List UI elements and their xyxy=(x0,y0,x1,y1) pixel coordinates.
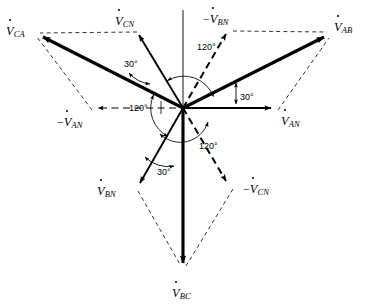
phasor-dot-bn xyxy=(100,179,102,181)
phasor-diagram-figure: VCA VCN −VBN VAB −VAN VAN VBN −VCN VBC 3… xyxy=(0,0,367,307)
label-v-bc-subscript: BC xyxy=(180,291,191,301)
phasor-dot-neg-cn xyxy=(252,177,254,179)
angle-label-120-top: 120° xyxy=(197,43,216,52)
phasor-dot-ab xyxy=(337,15,339,17)
angle-label-30-right: 30° xyxy=(240,93,254,102)
label-v-ab: VAB xyxy=(334,18,352,35)
label-neg-v-bn-subscript: BN xyxy=(217,17,228,27)
label-v-ab-symbol: V xyxy=(334,20,342,34)
label-v-cn: VCN xyxy=(115,12,134,29)
label-neg-v-an-subscript: AN xyxy=(71,120,82,130)
label-v-cn-symbol: V xyxy=(115,14,123,28)
label-v-bc-symbol: V xyxy=(172,286,180,300)
angle-label-30-upper-left: 30° xyxy=(124,60,138,69)
label-neg-v-an-symbol: V xyxy=(64,115,72,129)
label-neg-v-cn-symbol: V xyxy=(250,182,258,196)
label-neg-v-bn-symbol: V xyxy=(210,12,218,26)
angle-label-30-lower-left: 30° xyxy=(157,168,171,177)
label-neg-v-an-sign: − xyxy=(57,115,64,129)
label-neg-v-cn-sign: − xyxy=(243,182,250,196)
phasor-dot-neg-an xyxy=(66,110,68,112)
label-v-cn-subscript: CN xyxy=(123,19,135,29)
label-v-bn-subscript: BN xyxy=(105,189,116,199)
phasor-dot-cn xyxy=(118,9,120,11)
phasor-diagram-canvas xyxy=(0,0,367,307)
construction-line-negbn-to-ab xyxy=(233,31,327,32)
label-v-ca-subscript: CA xyxy=(14,29,25,39)
arc-120-left xyxy=(151,95,168,137)
phasor-dot-bc xyxy=(175,281,177,283)
label-v-ca-symbol: V xyxy=(6,24,14,38)
label-neg-v-bn: −VBN xyxy=(203,10,228,27)
construction-line-bn-to-bc xyxy=(138,191,181,266)
label-neg-v-an: −VAN xyxy=(57,113,82,130)
label-v-ca: VCA xyxy=(6,22,25,39)
phase-voltage-phasors-group xyxy=(139,35,271,183)
phasor-dot-ca xyxy=(9,19,11,21)
label-v-an: VAN xyxy=(281,112,300,129)
label-v-an-subscript: AN xyxy=(289,119,300,129)
label-neg-v-cn-subscript: CN xyxy=(257,187,269,197)
label-v-bc: VBC xyxy=(172,284,191,301)
angle-label-120-left: 120° xyxy=(129,104,148,113)
label-v-bn-symbol: V xyxy=(97,184,105,198)
label-v-an-symbol: V xyxy=(281,114,289,128)
construction-line-negcn-to-bc xyxy=(186,189,233,266)
label-neg-v-cn: −VCN xyxy=(243,180,269,197)
line-voltage-phasors-group xyxy=(43,37,324,263)
construction-line-cn-to-ca xyxy=(40,32,137,33)
label-v-bn: VBN xyxy=(97,182,116,199)
phasor-dot-an xyxy=(284,109,286,111)
phasor-dot-neg-bn xyxy=(212,7,214,9)
label-neg-v-bn-sign: − xyxy=(203,12,210,26)
angle-label-120-bottom: 120° xyxy=(199,142,218,151)
label-v-ab-subscript: AB xyxy=(342,25,353,35)
